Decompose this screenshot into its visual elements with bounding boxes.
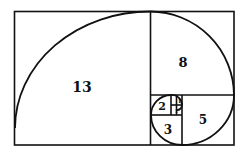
label-13: 13 <box>72 79 91 95</box>
label-1b: 1 <box>175 108 178 114</box>
fibonacci-spiral-diagram: 13 8 5 3 2 1 1 <box>0 0 248 157</box>
label-5: 5 <box>199 113 207 127</box>
label-2: 2 <box>158 100 166 113</box>
label-3: 3 <box>164 123 172 137</box>
label-1a: 1 <box>178 98 181 104</box>
label-8: 8 <box>178 55 187 70</box>
